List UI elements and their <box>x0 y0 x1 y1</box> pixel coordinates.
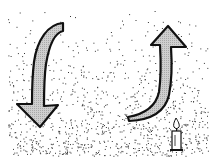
candle-body <box>172 131 181 150</box>
candle-icon <box>0 0 216 161</box>
candle-flame <box>174 118 180 129</box>
illustration-scene <box>0 0 216 161</box>
